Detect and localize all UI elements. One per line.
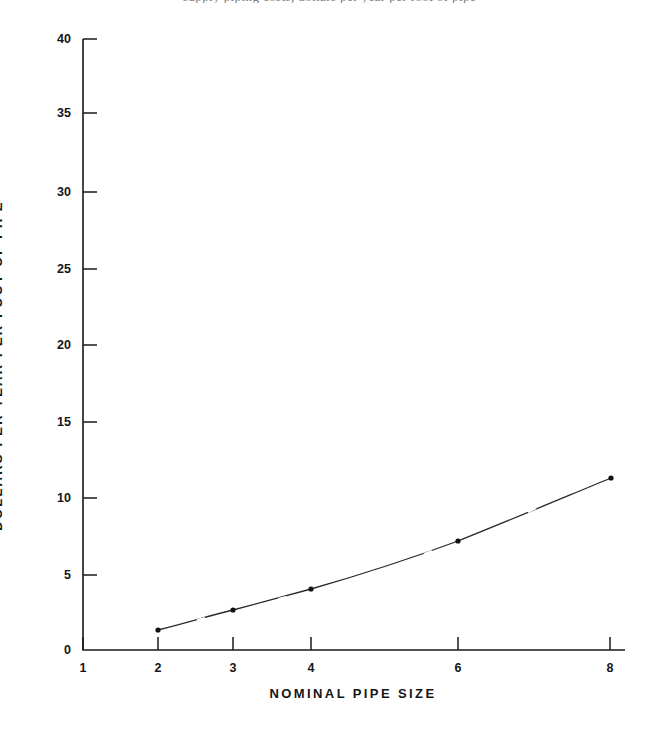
data-point-markers bbox=[155, 475, 613, 632]
x-tick-label-4: 4 bbox=[296, 661, 326, 675]
y-tick-label-35: 35 bbox=[33, 106, 71, 120]
data-point-3[interactable] bbox=[230, 607, 235, 612]
y-tick-label-40: 40 bbox=[33, 32, 71, 46]
y-tick-label-20: 20 bbox=[33, 338, 71, 352]
x-tick-label-1: 1 bbox=[68, 661, 98, 675]
y-tick-label-5: 5 bbox=[33, 568, 71, 582]
plot-area bbox=[0, 0, 659, 731]
figure-container: supply piping costs, dollars per year pe… bbox=[0, 0, 659, 731]
y-tick-label-25: 25 bbox=[33, 262, 71, 276]
y-tick-label-10: 10 bbox=[33, 491, 71, 505]
data-point-6[interactable] bbox=[455, 538, 460, 543]
data-series-line bbox=[158, 478, 611, 630]
y-tick-label-15: 15 bbox=[33, 415, 71, 429]
x-tick-label-6: 6 bbox=[443, 661, 473, 675]
y-axis-ticks bbox=[83, 39, 97, 575]
data-point-4[interactable] bbox=[308, 586, 313, 591]
x-tick-label-8: 8 bbox=[595, 661, 625, 675]
x-tick-label-2: 2 bbox=[143, 661, 173, 675]
y-tick-label-0: 0 bbox=[33, 643, 71, 657]
data-point-8[interactable] bbox=[608, 475, 613, 480]
x-tick-label-3: 3 bbox=[218, 661, 248, 675]
x-axis-ticks bbox=[83, 637, 610, 650]
axis-spine bbox=[83, 39, 625, 650]
y-tick-label-30: 30 bbox=[33, 185, 71, 199]
data-point-2[interactable] bbox=[155, 627, 160, 632]
scan-artifact-gaps bbox=[197, 508, 536, 620]
x-axis-title: NOMINAL PIPE SIZE bbox=[83, 686, 623, 701]
